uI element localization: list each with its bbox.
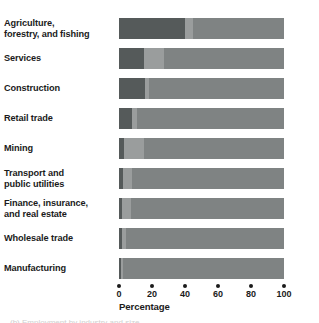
category-label: Finance, insurance,and real estate <box>4 194 116 224</box>
stacked-bar <box>119 168 284 189</box>
category-label-line: Retail trade <box>4 113 116 124</box>
chart-rows: Agriculture,forestry, and fishingService… <box>0 14 319 284</box>
category-label: Wholesale trade <box>4 224 116 254</box>
category-label-line: Agriculture, <box>4 18 116 29</box>
category-label: Agriculture,forestry, and fishing <box>4 14 116 44</box>
chart-row: Retail trade <box>0 104 319 134</box>
stacked-bar <box>119 108 284 129</box>
category-label-line: and real estate <box>4 209 116 220</box>
category-label-line: Construction <box>4 83 116 94</box>
x-tick-label: 100 <box>276 289 291 299</box>
x-tick-label: 0 <box>116 289 121 299</box>
category-label: Transport andpublic utilities <box>4 164 116 194</box>
category-label-line: Finance, insurance, <box>4 198 116 209</box>
bar-segment-1 <box>119 48 144 69</box>
category-label: Services <box>4 44 116 74</box>
chart-row: Manufacturing <box>0 254 319 284</box>
bar-segment-3 <box>193 18 284 39</box>
chart-row: Finance, insurance,and real estate <box>0 194 319 224</box>
category-label-line: Wholesale trade <box>4 233 116 244</box>
bar-segment-3 <box>144 138 284 159</box>
x-tick-mark <box>150 284 154 288</box>
x-tick-label: 20 <box>147 289 157 299</box>
stacked-bar <box>119 258 284 279</box>
category-label: Mining <box>4 134 116 164</box>
bar-segment-3 <box>131 198 284 219</box>
clipped-caption: (b) Employment by industry and size <box>10 319 260 323</box>
bar-segment-3 <box>123 258 284 279</box>
x-tick-mark <box>183 284 187 288</box>
category-label-line: Transport and <box>4 168 116 179</box>
category-label-line: public utilities <box>4 179 116 190</box>
chart-row: Mining <box>0 134 319 164</box>
stacked-bar <box>119 138 284 159</box>
chart-row: Transport andpublic utilities <box>0 164 319 194</box>
stacked-bar <box>119 198 284 219</box>
stacked-bar <box>119 18 284 39</box>
x-tick-mark <box>282 284 286 288</box>
bar-segment-1 <box>119 78 145 99</box>
bar-segment-2 <box>144 48 164 69</box>
chart-row: Services <box>0 44 319 74</box>
bar-segment-1 <box>119 108 132 129</box>
x-axis: Percentage 020406080100 <box>0 284 319 323</box>
chart-row: Wholesale trade <box>0 224 319 254</box>
stacked-bar <box>119 78 284 99</box>
stacked-bar <box>119 48 284 69</box>
bar-segment-3 <box>126 228 284 249</box>
category-label-line: Manufacturing <box>4 263 116 274</box>
bar-segment-2 <box>122 198 130 219</box>
chart-row: Agriculture,forestry, and fishing <box>0 14 319 44</box>
category-label-line: Mining <box>4 143 116 154</box>
bar-segment-2 <box>123 168 132 189</box>
bar-segment-3 <box>132 168 284 189</box>
category-label-line: Services <box>4 53 116 64</box>
bar-segment-2 <box>185 18 193 39</box>
bar-segment-2 <box>124 138 144 159</box>
chart-row: Construction <box>0 74 319 104</box>
x-tick-mark <box>117 284 121 288</box>
x-tick-mark <box>249 284 253 288</box>
x-tick-mark <box>216 284 220 288</box>
category-label: Manufacturing <box>4 254 116 284</box>
bar-segment-3 <box>137 108 284 129</box>
bar-segment-3 <box>149 78 284 99</box>
stacked-bar-chart: Agriculture,forestry, and fishingService… <box>0 0 319 323</box>
x-tick-label: 60 <box>213 289 223 299</box>
stacked-bar <box>119 228 284 249</box>
bar-segment-1 <box>119 18 185 39</box>
category-label: Construction <box>4 74 116 104</box>
x-tick-label: 80 <box>246 289 256 299</box>
x-tick-label: 40 <box>180 289 190 299</box>
category-label: Retail trade <box>4 104 116 134</box>
bar-segment-3 <box>164 48 284 69</box>
x-axis-title: Percentage <box>119 301 170 312</box>
category-label-line: forestry, and fishing <box>4 29 116 40</box>
